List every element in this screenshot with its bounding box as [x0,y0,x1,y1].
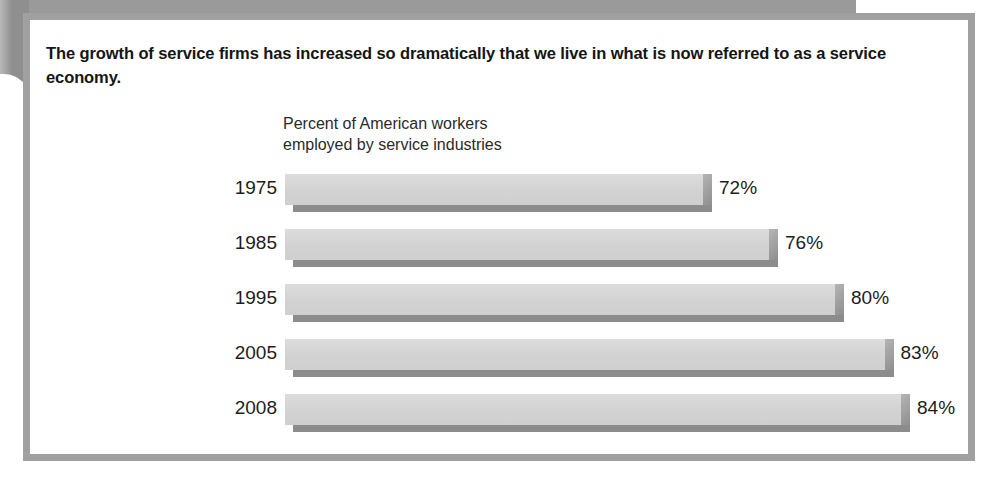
bar-row: 197572% [30,168,968,223]
bar-category-label: 1995 [180,287,277,309]
chart-subtitle: Percent of American workers employed by … [283,113,502,156]
bar-bottom-shadow [293,205,712,212]
bar-row: 199580% [30,278,968,333]
bar-value-label: 84% [917,397,955,419]
bar-value-label: 83% [901,342,939,364]
bar-end-cap [769,229,778,260]
bar-shape [285,229,769,260]
bar-shape [285,174,703,205]
bar-end-cap [835,284,844,315]
bar-category-label: 2005 [180,342,277,364]
bar-face [285,229,769,260]
bar-bottom-shadow [293,370,894,377]
bar-category-label: 2008 [180,397,277,419]
bar-shape [285,339,885,370]
bar-face [285,394,901,425]
bar-end-cap [885,339,894,370]
scanned-figure-page: The growth of service firms has increase… [0,0,994,478]
bar-bottom-shadow [293,315,844,322]
bar-value-label: 72% [719,177,757,199]
bar-face [285,339,885,370]
chart-subtitle-line-1: Percent of American workers [283,113,502,134]
bar-row: 198576% [30,223,968,278]
bar-end-cap [901,394,910,425]
chart-subtitle-line-2: employed by service industries [283,134,502,155]
bar-end-cap [703,174,712,205]
bar-category-label: 1985 [180,232,277,254]
bar-face [285,174,703,205]
figure-frame: The growth of service firms has increase… [23,13,975,461]
bar-value-label: 76% [785,232,823,254]
bar-row: 200884% [30,388,968,443]
figure-title: The growth of service firms has increase… [46,42,926,90]
bar-chart: 197572%198576%199580%200583%200884% [30,168,968,443]
bar-row: 200583% [30,333,968,388]
bar-category-label: 1975 [180,177,277,199]
bar-value-label: 80% [851,287,889,309]
bar-face [285,284,835,315]
bar-bottom-shadow [293,260,778,267]
bar-shape [285,284,835,315]
scan-edge-top-band [0,0,856,13]
bar-shape [285,394,901,425]
bar-bottom-shadow [293,425,910,432]
